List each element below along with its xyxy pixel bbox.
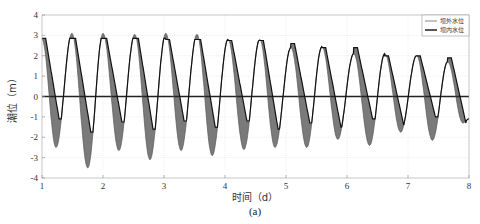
x-tick-label: 8 (467, 181, 472, 191)
y-tick-label: -2 (31, 132, 39, 142)
x-tick-label: 7 (406, 181, 411, 191)
legend: 坝外水位 坝内水位 (422, 15, 469, 36)
x-tick-label: 4 (223, 181, 228, 191)
y-tick-label: -3 (31, 153, 39, 163)
y-axis-label: 潮位（m） (6, 73, 18, 123)
y-tick-label: 2 (34, 51, 39, 61)
y-tick-label: 3 (34, 30, 39, 40)
series-inner-water-level (42, 38, 469, 132)
x-tick-label: 3 (162, 181, 167, 191)
x-tick-label: 2 (101, 181, 106, 191)
y-tick-label: 0 (34, 92, 39, 102)
figure-caption: (a) (249, 205, 262, 218)
y-tick-label: 4 (34, 10, 39, 20)
y-tick-label: -4 (31, 173, 39, 183)
legend-inner-label: 坝内水位 (440, 26, 464, 34)
x-axis-label: 时间（d） (232, 191, 278, 203)
y-tick-label: 1 (34, 71, 39, 81)
x-tick-label: 1 (40, 181, 45, 191)
y-tick-label: -1 (31, 112, 39, 122)
legend-outer-label: 坝外水位 (440, 17, 464, 25)
x-tick-label: 6 (345, 181, 350, 191)
tide-level-chart: 12345678-4-3-2-101234 潮位（m） 时间（d） (a) 坝外… (0, 0, 480, 224)
x-tick-label: 5 (284, 181, 289, 191)
